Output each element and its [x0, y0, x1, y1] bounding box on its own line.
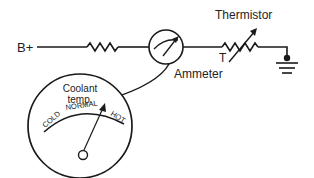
thermistor-icon	[222, 28, 258, 62]
resistor-icon	[87, 43, 118, 51]
thermistor-label: Thermistor	[215, 8, 272, 22]
circuit-diagram: B+ T Thermistor Ammeter	[0, 0, 314, 178]
thermistor-symbol-label: T	[219, 51, 227, 65]
supply-label: B+	[17, 40, 33, 55]
ground-icon	[276, 55, 298, 73]
gauge-title-line1: Coolant	[63, 83, 98, 94]
wire-ground	[258, 47, 287, 58]
ammeter-label: Ammeter	[174, 67, 223, 81]
gauge-pivot-icon	[79, 151, 88, 160]
ammeter-icon	[149, 30, 183, 64]
